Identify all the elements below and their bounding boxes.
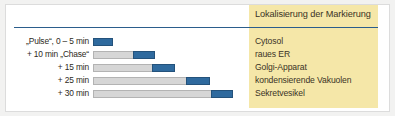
row-label: + 25 min bbox=[0, 74, 89, 87]
row-label: „Pulse“, 0 – 5 min bbox=[0, 35, 89, 48]
bar-marker bbox=[152, 64, 175, 72]
chart-row: + 10 min „Chase“ bbox=[0, 48, 249, 61]
chart-row: „Pulse“, 0 – 5 min bbox=[0, 35, 249, 48]
row-label: + 10 min „Chase“ bbox=[0, 48, 89, 61]
bar-marker bbox=[186, 77, 210, 85]
chart-row: + 30 min bbox=[0, 87, 249, 100]
chart-row: + 15 min bbox=[0, 61, 249, 74]
legend-item-kondensierende-vakuolen: kondensierende Vakuolen bbox=[255, 74, 379, 87]
legend-item-sekretvesikel: Sekretvesikel bbox=[255, 87, 379, 100]
figure-root: Lokalisierung der Markierung „Pulse“, 0 … bbox=[0, 0, 395, 116]
bar-marker bbox=[211, 90, 233, 98]
legend-item-raues-er: raues ER bbox=[255, 48, 379, 61]
row-label: + 15 min bbox=[0, 61, 89, 74]
chart-plot-area: „Pulse“, 0 – 5 min + 10 min „Chase“ + 15… bbox=[0, 0, 249, 116]
chart-row: + 25 min bbox=[0, 74, 249, 87]
legend-item-golgi-apparat: Golgi-Apparat bbox=[255, 61, 379, 74]
legend-title: Lokalisierung der Markierung bbox=[255, 9, 375, 19]
legend-item-cytosol: Cytosol bbox=[255, 35, 379, 48]
bar-marker bbox=[133, 51, 155, 59]
bar-marker bbox=[93, 38, 113, 46]
row-label: + 30 min bbox=[0, 87, 89, 100]
